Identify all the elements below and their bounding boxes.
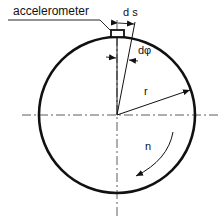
ds-dimension [118, 23, 134, 24]
dphi-label: dφ [138, 45, 151, 56]
center-lines [22, 20, 221, 218]
accelerometer-box [111, 30, 124, 37]
radius-label: r [144, 86, 148, 97]
dphi-arrow-right [129, 60, 138, 61]
radius-arrow [117, 90, 190, 115]
rotation-arrow [136, 132, 173, 176]
accelerometer-label: accelerometer [13, 5, 89, 17]
ds-label: d s [123, 7, 138, 18]
leader-line [8, 20, 111, 31]
rotation-label: n [145, 141, 151, 152]
dphi-arrow-left [106, 57, 116, 58]
diagram-canvas [0, 0, 221, 218]
